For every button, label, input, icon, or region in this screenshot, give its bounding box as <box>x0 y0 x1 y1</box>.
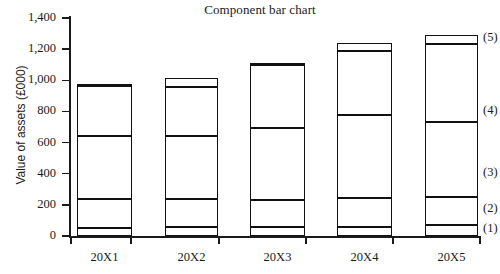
series-callout-5: (5) <box>483 30 498 45</box>
x-tick-label: 20X1 <box>65 250 145 265</box>
bar-segment-3[interactable] <box>425 122 478 197</box>
y-tick-mark <box>62 235 70 237</box>
y-tick-label: 600 <box>0 136 56 149</box>
bar-segment-1[interactable] <box>250 227 305 236</box>
y-axis-label: Value of assets (£000) <box>14 25 28 225</box>
y-tick-label: 1,400 <box>0 11 56 24</box>
component-bar-chart: Component bar chart Value of assets (£00… <box>0 0 500 274</box>
bar-segment-1[interactable] <box>77 228 132 236</box>
x-tick-mark <box>392 236 394 244</box>
bar-20X4[interactable] <box>337 43 392 236</box>
y-tick-label: 200 <box>0 198 56 211</box>
bar-segment-5[interactable] <box>165 78 218 87</box>
x-tick-mark <box>70 236 72 244</box>
bar-segment-3[interactable] <box>165 136 218 199</box>
bar-segment-4[interactable] <box>250 65 305 127</box>
bar-segment-2[interactable] <box>165 199 218 227</box>
bar-segment-2[interactable] <box>425 197 478 225</box>
bar-segment-4[interactable] <box>77 86 132 137</box>
bar-20X1[interactable] <box>77 84 132 236</box>
y-tick-mark <box>62 80 70 82</box>
bar-segment-2[interactable] <box>77 199 132 228</box>
y-tick-label: 0 <box>0 229 56 242</box>
x-tick-label: 20X3 <box>238 250 318 265</box>
x-tick-mark <box>479 236 481 244</box>
y-tick-mark <box>62 142 70 144</box>
series-callout-2: (2) <box>483 201 498 216</box>
series-callout-3: (3) <box>483 165 498 180</box>
y-tick-label: 1,000 <box>0 73 56 86</box>
bar-segment-4[interactable] <box>337 51 392 114</box>
bar-segment-3[interactable] <box>250 128 305 200</box>
y-tick-label: 400 <box>0 167 56 180</box>
bar-segment-4[interactable] <box>165 87 218 136</box>
y-tick-mark <box>62 204 70 206</box>
x-tick-label: 20X4 <box>325 250 405 265</box>
y-tick-label: 1,200 <box>0 42 56 55</box>
bar-segment-1[interactable] <box>425 225 478 236</box>
series-callout-4: (4) <box>483 103 498 118</box>
y-tick-mark <box>62 17 70 19</box>
x-tick-mark <box>218 236 220 244</box>
y-tick-mark <box>62 173 70 175</box>
x-tick-label: 20X2 <box>152 250 232 265</box>
x-tick-mark <box>305 236 307 244</box>
y-tick-mark <box>62 48 70 50</box>
bar-20X5[interactable] <box>425 35 478 236</box>
bar-segment-5[interactable] <box>250 63 305 65</box>
y-tick-label: 800 <box>0 104 56 117</box>
bar-segment-5[interactable] <box>77 84 132 86</box>
bar-20X3[interactable] <box>250 63 305 236</box>
bar-segment-1[interactable] <box>165 227 218 236</box>
x-tick-mark <box>130 236 132 244</box>
bar-segment-3[interactable] <box>77 136 132 199</box>
bar-segment-5[interactable] <box>425 35 478 44</box>
bar-segment-2[interactable] <box>337 198 392 227</box>
x-tick-label: 20X5 <box>412 250 492 265</box>
bar-segment-4[interactable] <box>425 44 478 123</box>
bar-segment-3[interactable] <box>337 115 392 198</box>
series-callout-1: (1) <box>483 221 498 236</box>
chart-title: Component bar chart <box>180 2 340 18</box>
bar-segment-1[interactable] <box>337 227 392 236</box>
bar-segment-5[interactable] <box>337 43 392 52</box>
bar-20X2[interactable] <box>165 78 218 236</box>
bar-segment-2[interactable] <box>250 200 305 227</box>
y-tick-mark <box>62 111 70 113</box>
